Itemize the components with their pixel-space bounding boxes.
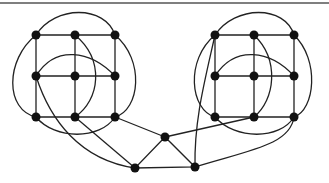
node [32, 31, 41, 40]
node [250, 113, 259, 122]
node [32, 72, 41, 81]
node [71, 113, 80, 122]
node [250, 31, 259, 40]
node [111, 72, 120, 81]
node [211, 113, 220, 122]
node [71, 72, 80, 81]
node [131, 164, 140, 173]
graph-diagram [0, 0, 329, 183]
node [111, 113, 120, 122]
node [211, 72, 220, 81]
node [211, 31, 220, 40]
node [290, 113, 299, 122]
node [290, 72, 299, 81]
node [250, 72, 259, 81]
node [290, 31, 299, 40]
edges [13, 13, 312, 169]
node [191, 163, 200, 172]
node [71, 31, 80, 40]
node [161, 133, 170, 142]
node [111, 31, 120, 40]
nodes [32, 31, 299, 173]
node [32, 113, 41, 122]
